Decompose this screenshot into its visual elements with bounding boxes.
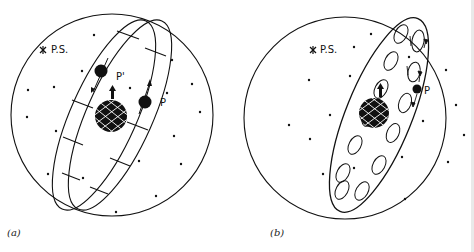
observer-arrow-icon-b — [377, 83, 384, 97]
celestial-sphere-b — [244, 17, 446, 219]
panel-b: P.S. P (b) — [244, 6, 465, 238]
earth-globe-icon-a — [88, 94, 134, 140]
pole-star-label-b: P.S. — [320, 44, 337, 55]
caption-a: (a) — [7, 227, 21, 238]
planet-p-a — [139, 79, 153, 114]
planet-p-b — [413, 85, 422, 94]
planet-p-label-b: P — [424, 85, 430, 96]
figure-canvas: P.S. P' — [0, 0, 474, 252]
planet-p-prime-label-a: P' — [116, 71, 125, 82]
epicycle-arrows-b — [407, 36, 428, 107]
panel-a: P.S. P' — [7, 7, 213, 238]
pole-star-label-a: P.S. — [51, 44, 68, 55]
pole-star-icon-a — [40, 46, 46, 54]
caption-b: (b) — [270, 227, 284, 238]
earth-globe-icon-b — [352, 92, 396, 136]
observer-arrow-icon-a — [109, 85, 116, 99]
pole-star-icon-b — [310, 46, 316, 54]
planet-p-label-a: P — [160, 97, 166, 108]
